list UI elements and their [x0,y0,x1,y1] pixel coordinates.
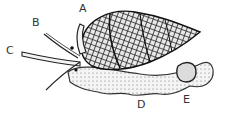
eye [74,68,77,71]
label-B: B [32,17,40,28]
label-C: C [6,45,14,56]
tentacle-B [44,34,78,58]
label-A: A [79,3,87,14]
label-D: D [137,99,145,110]
eye [70,46,74,50]
operculum [177,63,196,82]
snail-diagram: A B C D E [0,0,226,117]
label-E: E [183,94,190,105]
